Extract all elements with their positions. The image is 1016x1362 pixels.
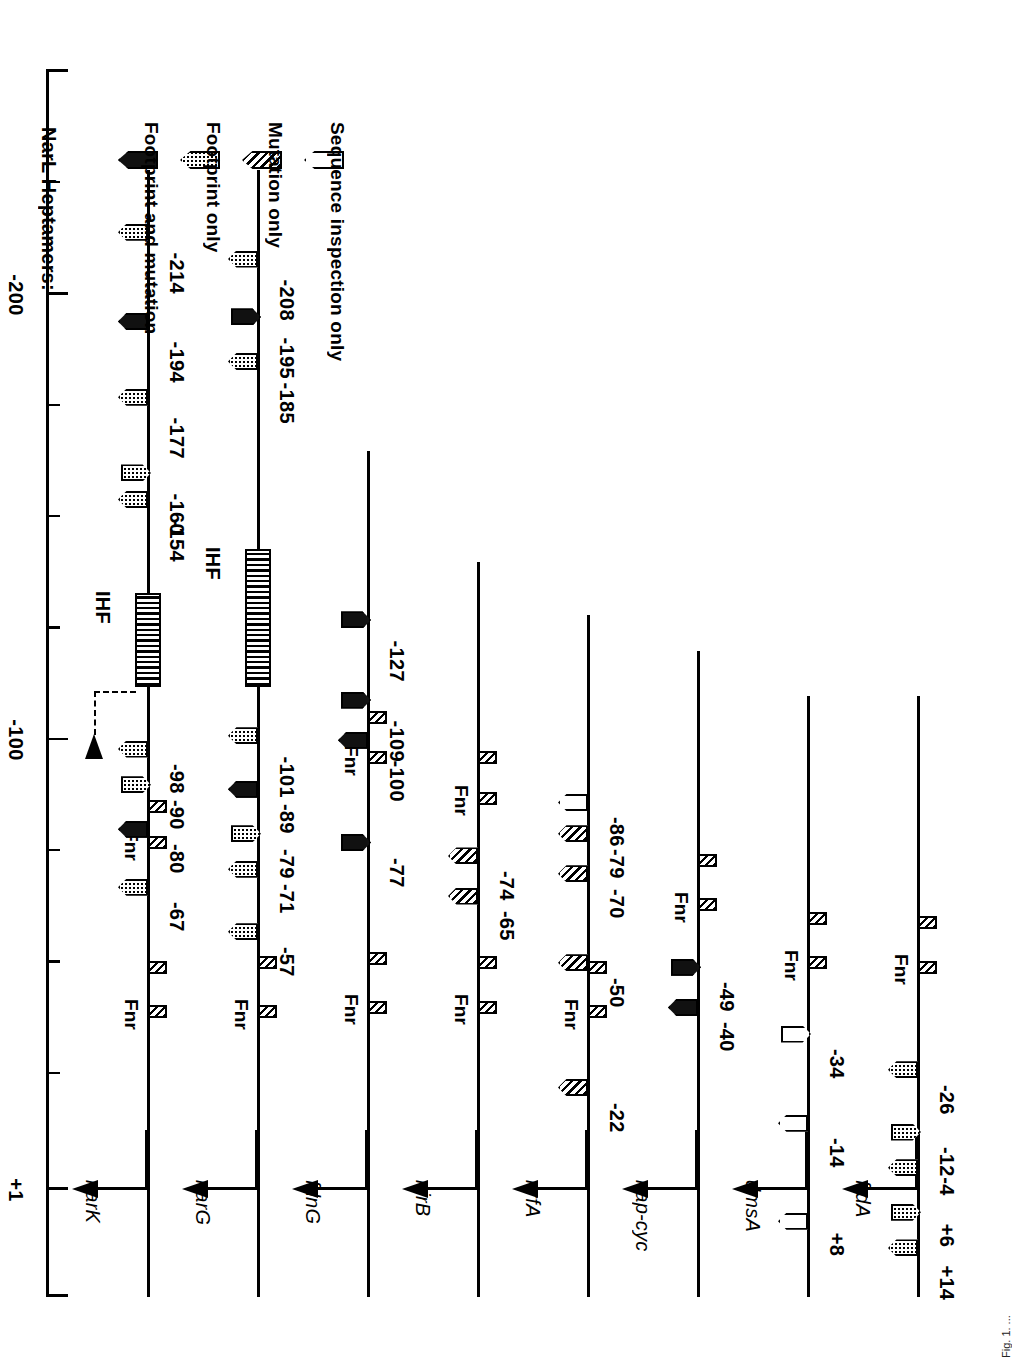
fnr-site xyxy=(368,1001,387,1014)
heptamer-position-label: -89 xyxy=(275,804,298,834)
heptamer-position-label: -22 xyxy=(605,1102,628,1132)
narl-heptamer xyxy=(668,999,698,1016)
axis-tick--75 xyxy=(46,849,60,852)
bend-arrow-head xyxy=(85,734,103,759)
fnr-site xyxy=(918,916,937,929)
heptamer-position-label: -214 xyxy=(165,253,188,294)
heptamer-position-label: -26 xyxy=(935,1085,958,1115)
axis-tick-label--100: -100 xyxy=(4,719,27,761)
narl-heptamer xyxy=(228,353,258,370)
heptamer-position-label: -86 xyxy=(605,817,628,847)
dna-line xyxy=(697,651,700,1297)
narl-heptamer xyxy=(448,847,478,864)
heptamer-position-label: -208 xyxy=(275,280,298,321)
heptamer-position-label: -65 xyxy=(495,911,518,941)
fnr-site xyxy=(698,898,717,911)
axis-tick--125 xyxy=(46,626,60,629)
axis-tick--150 xyxy=(46,515,60,518)
narl-heptamer xyxy=(558,1079,588,1096)
ihf-label: IHF xyxy=(201,547,224,580)
heptamer-position-label: -160 xyxy=(165,494,188,535)
heptamer-position-label: -177 xyxy=(165,418,188,459)
axis-tick--50 xyxy=(46,960,60,963)
heptamer-position-label: -12 xyxy=(935,1147,958,1177)
heptamer-position-label: -194 xyxy=(165,342,188,383)
heptamer-position-label: +6 xyxy=(935,1224,958,1247)
fnr-site-label: Fnr xyxy=(230,999,252,1030)
axis-tick-1 xyxy=(46,1188,68,1191)
heptamer-position-label: -74 xyxy=(495,871,518,901)
fnr-site xyxy=(478,956,497,969)
narl-heptamer xyxy=(448,888,478,905)
fnr-site xyxy=(478,751,497,764)
heptamer-position-label: +14 xyxy=(935,1265,958,1300)
axis-tick--175 xyxy=(46,404,60,407)
heptamer-position-label: -71 xyxy=(275,884,298,914)
axis-tick--25 xyxy=(46,1072,60,1075)
dna-line xyxy=(807,696,810,1297)
heptamer-position-label: -77 xyxy=(385,857,408,887)
narl-heptamer xyxy=(228,251,258,268)
fnr-site xyxy=(478,792,497,805)
gene-arrow-base xyxy=(365,1130,368,1190)
gene-name-label: nirB xyxy=(411,1180,434,1216)
gene-name-label: narK xyxy=(81,1180,104,1223)
narl-heptamer xyxy=(228,923,258,940)
axis-tick-label--200: -200 xyxy=(4,274,27,316)
gene-arrow-base xyxy=(695,1130,698,1190)
fnr-site xyxy=(918,961,937,974)
gene-arrow-base xyxy=(805,1130,808,1190)
promoter-row-frdA: frdAFnr+14+6-4-12-26 xyxy=(862,0,974,1362)
narl-heptamer xyxy=(778,1213,808,1230)
gene-name-label: dmsA xyxy=(741,1180,764,1232)
heptamer-position-label: -67 xyxy=(165,902,188,932)
heptamer-position-label: -109 xyxy=(385,721,408,762)
gene-name-label: fdnG xyxy=(301,1180,324,1224)
heptamer-position-label: -80 xyxy=(165,844,188,874)
gene-arrow-base xyxy=(145,1130,148,1190)
axis-endcap-end xyxy=(46,70,68,73)
heptamer-position-label: -79 xyxy=(275,849,298,879)
heptamer-position-label: -195 xyxy=(275,338,298,379)
heptamer-position-label: -79 xyxy=(605,849,628,879)
narl-heptamer xyxy=(228,861,258,878)
axis-tick--100 xyxy=(46,738,68,741)
fnr-site-label: Fnr xyxy=(560,999,582,1030)
narl-heptamer xyxy=(228,727,258,744)
heptamer-position-label: -57 xyxy=(275,947,298,977)
fnr-site xyxy=(808,912,827,925)
narl-heptamer xyxy=(118,389,148,406)
narl-heptamer xyxy=(558,865,588,882)
narl-heptamer xyxy=(228,781,258,798)
legend-item-label: Footprint and mutation xyxy=(140,122,162,334)
fnr-site xyxy=(148,961,167,974)
fnr-site-label: Fnr xyxy=(450,994,472,1025)
narl-heptamer xyxy=(558,954,588,971)
heptamer-position-label: -101 xyxy=(275,756,298,797)
fnr-site-label: Fnr xyxy=(450,785,472,816)
promoter-row-nrfA: nrfAFnr-22-50-70-79-86 xyxy=(532,0,644,1362)
fnr-site-label: Fnr xyxy=(890,954,912,985)
heptamer-position-label: -98 xyxy=(165,764,188,794)
legend-item-label: Sequence inspection only xyxy=(326,122,348,361)
narl-heptamer xyxy=(778,1115,808,1132)
fnr-site xyxy=(808,956,827,969)
figure-stage: +1-100-200 narKIHFFnrFnr-67-80-90-98-154… xyxy=(0,0,1016,1362)
ihf-box xyxy=(245,549,271,687)
fnr-site-label: Fnr xyxy=(780,950,802,981)
promoter-row-dmsA: dmsAFnr+8-14-34 xyxy=(752,0,864,1362)
heptamer-position-label: -127 xyxy=(385,640,408,681)
legend-title: NarL Heptamers: xyxy=(37,127,60,291)
heptamer-position-label: -40 xyxy=(715,1022,738,1052)
promoter-row-nirB: nirBFnrFnr-65-74 xyxy=(422,0,534,1362)
fnr-site-label: Fnr xyxy=(120,999,142,1030)
heptamer-position-label: +8 xyxy=(825,1233,848,1256)
heptamer-position-label: -14 xyxy=(825,1138,848,1168)
narl-heptamer xyxy=(558,825,588,842)
promoter-row-nap-cyc: nap-cycFnr-40-49 xyxy=(642,0,754,1362)
legend-item-label: Mutation only xyxy=(264,122,286,248)
heptamer-position-label: -50 xyxy=(605,978,628,1008)
bend-arrow-stem xyxy=(94,691,136,693)
gene-arrow-base xyxy=(475,1130,478,1190)
axis-tick-label-1: +1 xyxy=(4,1178,27,1202)
